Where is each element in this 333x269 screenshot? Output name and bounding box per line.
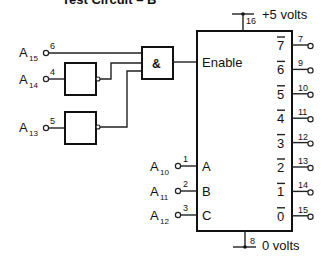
output-label: 6	[277, 62, 284, 77]
output-label: 7	[277, 38, 284, 53]
pin-number: 5	[50, 116, 55, 126]
input-a14: A 14 4	[19, 67, 65, 90]
input-terminal	[175, 163, 180, 168]
signal-label: A	[19, 45, 28, 60]
pin-number: 11	[298, 107, 307, 117]
signal-subscript: 11	[160, 193, 169, 202]
output-label: 3	[277, 136, 284, 151]
input-terminal	[175, 188, 180, 193]
test-circuit-diagram: Test Circuit – B A 15 6 A 14 4 A 13 5 & …	[0, 0, 333, 269]
pin-number: 10	[298, 83, 308, 93]
output-label: 0	[277, 209, 284, 224]
output-1: 114	[277, 180, 313, 199]
output-label: 5	[277, 87, 284, 102]
output-terminal	[308, 68, 313, 73]
inverter-gate-2	[65, 112, 96, 144]
output-2: 213	[277, 156, 313, 175]
signal-subscript: 12	[160, 217, 169, 226]
signal-subscript: 13	[29, 129, 38, 138]
output-terminal	[308, 165, 313, 170]
output-terminal	[308, 214, 313, 219]
pin-number: 15	[298, 205, 308, 215]
signal-subscript: 14	[29, 81, 38, 90]
pin-number: 12	[298, 132, 308, 142]
gnd-junction	[243, 245, 247, 249]
output-terminal	[308, 190, 313, 195]
output-label: 4	[277, 111, 284, 126]
output-6: 69	[277, 58, 313, 77]
pin-number: 13	[298, 156, 308, 166]
input-terminal	[175, 212, 180, 217]
output-7: 77	[277, 34, 313, 53]
pin-number: 9	[298, 58, 303, 68]
pin-number: 7	[298, 34, 303, 44]
pin-number: 1	[183, 154, 188, 164]
select-label: A	[202, 159, 211, 174]
output-0: 015	[277, 205, 313, 224]
inverter-bubble	[96, 77, 100, 81]
select-label: B	[202, 184, 211, 199]
signal-label: A	[19, 72, 28, 87]
input-terminal	[43, 50, 48, 55]
signal-subscript: 10	[160, 168, 169, 177]
select-label: C	[202, 208, 211, 223]
input-terminal	[43, 125, 48, 130]
vcc-label: +5 volts	[262, 7, 308, 22]
output-terminal	[308, 117, 313, 122]
inverter-gate-1	[65, 63, 96, 95]
output-3: 312	[277, 132, 313, 151]
signal-label: A	[150, 184, 159, 199]
output-terminal	[308, 141, 313, 146]
pin-number: 3	[183, 203, 188, 213]
pin-number: 4	[50, 67, 55, 77]
input-a13: A 13 5	[19, 116, 65, 138]
enable-label: Enable	[202, 55, 242, 70]
signal-label: A	[150, 208, 159, 223]
input-a15: A 15 6	[19, 41, 142, 63]
pin-number: 14	[298, 180, 308, 190]
output-terminal	[308, 43, 313, 48]
output-label: 1	[277, 184, 284, 199]
inverter-bubble	[96, 125, 100, 129]
vcc-pin-number: 16	[246, 16, 256, 26]
gnd-label: 0 volts	[262, 238, 300, 253]
output-4: 411	[277, 107, 313, 126]
and-symbol: &	[152, 57, 161, 71]
signal-label: A	[19, 120, 28, 135]
output-label: 2	[277, 160, 284, 175]
gnd-pin-number: 8	[250, 236, 255, 246]
pin-number: 6	[50, 41, 55, 51]
input-terminal	[43, 76, 48, 81]
signal-subscript: 15	[29, 54, 38, 63]
output-5: 510	[277, 83, 313, 102]
signal-label: A	[150, 159, 159, 174]
diagram-title: Test Circuit – B	[62, 0, 156, 7]
output-terminal	[308, 92, 313, 97]
pin-number: 2	[183, 179, 188, 189]
